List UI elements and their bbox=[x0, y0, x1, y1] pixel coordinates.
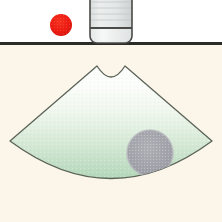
transducer-face bbox=[90, 28, 132, 43]
marker-dot-texture bbox=[50, 14, 72, 36]
figure-canvas bbox=[0, 0, 222, 222]
transducer-probe bbox=[90, 0, 132, 43]
ultrasound-sector-scan-figure: Ultrasound sector scan diagram bbox=[0, 0, 222, 222]
marker-dot bbox=[50, 14, 72, 36]
